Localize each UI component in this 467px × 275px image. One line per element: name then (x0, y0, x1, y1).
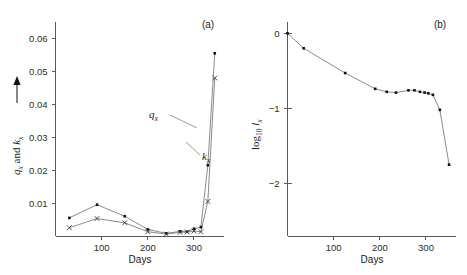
panel-b-svg: 0−1−2 100200300 log10 lx Days (b) (233, 0, 467, 275)
panel-a-x-tick-label: 300 (186, 242, 202, 253)
panel-a-series-kx-markers (67, 76, 217, 237)
panel-a-marker-qx (96, 203, 99, 206)
chart-panel-a: 0.010.020.030.040.050.06 100200300 qx kx… (0, 0, 234, 275)
panel-a-y-tick-label: 0.03 (29, 132, 48, 143)
panel-b-tag: (b) (434, 19, 446, 30)
panel-a-marker-qx (68, 217, 71, 220)
panel-b-marker (344, 72, 347, 75)
panel-a-y-axis-ticks: 0.010.020.030.040.050.06 (29, 33, 56, 209)
panel-b-series-markers (286, 32, 450, 166)
panel-a-marker-qx (200, 226, 203, 229)
series-label-kx: kx (202, 150, 211, 165)
panel-a-series-qx-markers (68, 52, 216, 235)
panel-b-x-axis-label: Days (361, 254, 384, 265)
panel-b-marker (413, 89, 416, 92)
panel-b-marker (385, 91, 388, 94)
panel-b-x-tick-label: 200 (372, 242, 388, 253)
leader-line-kx (186, 142, 200, 155)
panel-b-y-tick-label: −2 (269, 178, 280, 189)
panel-a-series-kx-line (69, 78, 214, 234)
panel-b-marker (302, 47, 305, 50)
panel-b-series-line (288, 33, 450, 164)
panel-a-x-axis-ticks: 100200300 (94, 236, 202, 253)
panel-b-marker (432, 94, 435, 97)
panel-b-x-tick-label: 300 (418, 242, 434, 253)
panel-a-series-qx-line (69, 53, 214, 233)
panel-a-marker-qx (213, 52, 216, 55)
panel-a-y-tick-label: 0.05 (29, 66, 48, 77)
panel-a-svg: 0.010.020.030.040.050.06 100200300 qx kx… (0, 0, 234, 275)
leader-line-qx (170, 115, 197, 128)
panel-b-marker (427, 92, 430, 95)
panel-b-x-tick-label: 100 (326, 242, 342, 253)
panel-b-marker (419, 91, 422, 94)
panel-b-marker (439, 109, 442, 112)
panel-a-x-tick-label: 200 (140, 242, 156, 253)
panel-a-y-axis-label: qx and kx (10, 136, 25, 175)
panel-b-y-tick-label: 0 (274, 28, 279, 39)
panel-a-y-tick-label: 0.04 (29, 99, 48, 110)
panel-b-marker (374, 88, 377, 91)
panel-a-y-axis-label-group: qx and kx (10, 76, 25, 175)
panel-a-y-tick-label: 0.06 (29, 33, 48, 44)
series-label-qx: qx (149, 108, 159, 123)
panel-a-x-axis-label: Days (129, 254, 152, 265)
panel-a-y-axis-arrow-head (13, 76, 20, 85)
panel-a-y-tick-label: 0.01 (29, 198, 48, 209)
panel-b-marker (448, 163, 451, 166)
panel-b-marker (423, 91, 426, 94)
panel-a-y-tick-label: 0.02 (29, 165, 48, 176)
panel-b-marker (407, 89, 410, 92)
panel-a-marker-qx (123, 215, 126, 218)
panel-b-y-axis-label: log10 lx (249, 119, 264, 150)
panel-b-marker (395, 91, 398, 94)
panel-b-x-axis-ticks: 100200300 (326, 236, 434, 253)
panel-a-tag: (a) (202, 19, 214, 30)
chart-panel-b: 0−1−2 100200300 log10 lx Days (b) (233, 0, 467, 275)
panel-b-y-tick-label: −1 (269, 103, 280, 114)
panel-a-x-tick-label: 100 (94, 242, 110, 253)
panel-b-marker (286, 32, 289, 35)
panel-a-marker-kx (67, 225, 72, 230)
panel-b-y-axis-ticks: 0−1−2 (269, 28, 292, 189)
figure-container: 0.010.020.030.040.050.06 100200300 qx kx… (0, 0, 467, 275)
